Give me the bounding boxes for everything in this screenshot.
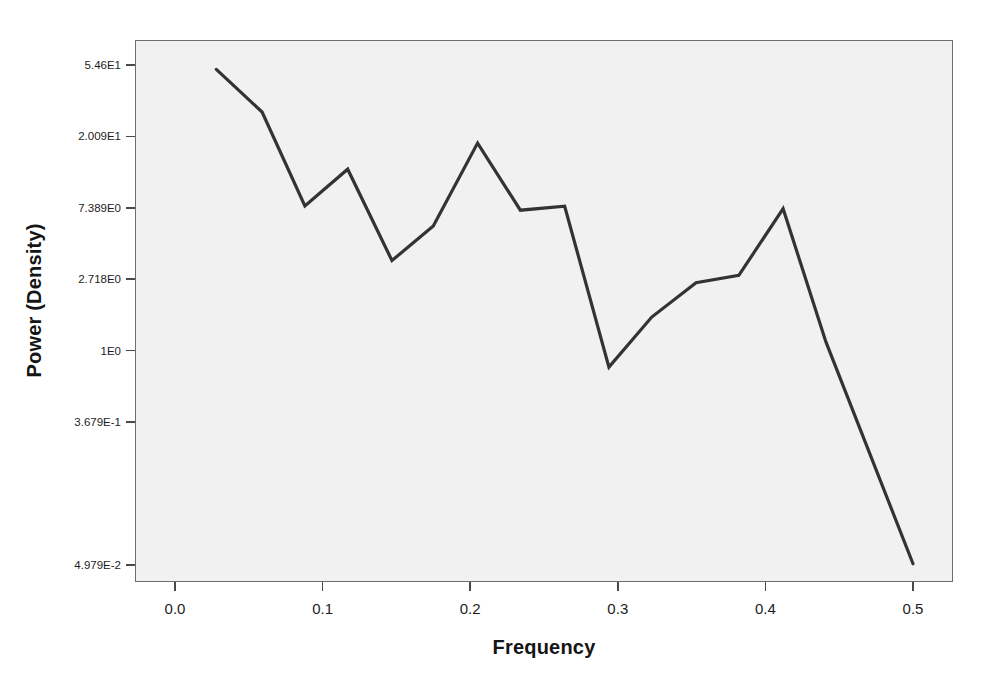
data-series-line	[216, 69, 913, 563]
power-density-chart: Power (Density) 5.46E12.009E17.389E02.71…	[0, 0, 988, 691]
x-axis-title: Frequency	[135, 636, 953, 659]
data-line-layer	[0, 0, 988, 691]
x-axis-title-text: Frequency	[493, 636, 596, 658]
